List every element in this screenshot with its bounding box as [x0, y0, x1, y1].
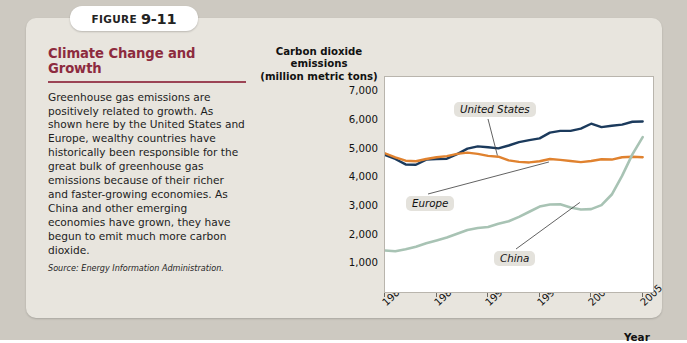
y-axis-title-line-2: emissions [256, 58, 382, 70]
title-divider [48, 81, 246, 83]
y-tick-label: 2,000 [332, 228, 378, 239]
y-tick-label: 7,000 [332, 85, 378, 96]
figure-title: Climate Change and Growth [48, 46, 253, 76]
chart: Carbon dioxide emissions (million metric… [256, 46, 656, 312]
series-label-china: China [494, 251, 535, 266]
y-tick-label: 5,000 [332, 142, 378, 153]
series-label-europe: Europe [406, 196, 454, 211]
y-tick-label: 4,000 [332, 171, 378, 182]
figure-source: Source: Energy Information Administratio… [48, 263, 253, 273]
y-tick-label: 1,000 [332, 257, 378, 268]
figure-tab-label: FIGURE [92, 13, 137, 25]
y-axis-title-line-1: Carbon dioxide [256, 46, 382, 58]
figure-tab-number: 9-11 [141, 11, 177, 27]
series-label-united-states: United States [454, 102, 536, 117]
y-axis-title: Carbon dioxide emissions (million metric… [256, 46, 382, 83]
y-tick-label: 3,000 [332, 200, 378, 211]
y-axis-title-line-3: (million metric tons) [256, 71, 382, 83]
series-line-china [385, 137, 643, 251]
figure-body-text: Greenhouse gas emissions are positively … [48, 91, 247, 258]
y-tick-label: 6,000 [332, 114, 378, 125]
figure-tab: FIGURE 9-11 [70, 6, 198, 31]
figure-text-column: Climate Change and Growth Greenhouse gas… [48, 46, 253, 273]
x-axis-title: Year [624, 331, 650, 343]
figure-card: FIGURE 9-11 Climate Change and Growth Gr… [26, 18, 662, 318]
